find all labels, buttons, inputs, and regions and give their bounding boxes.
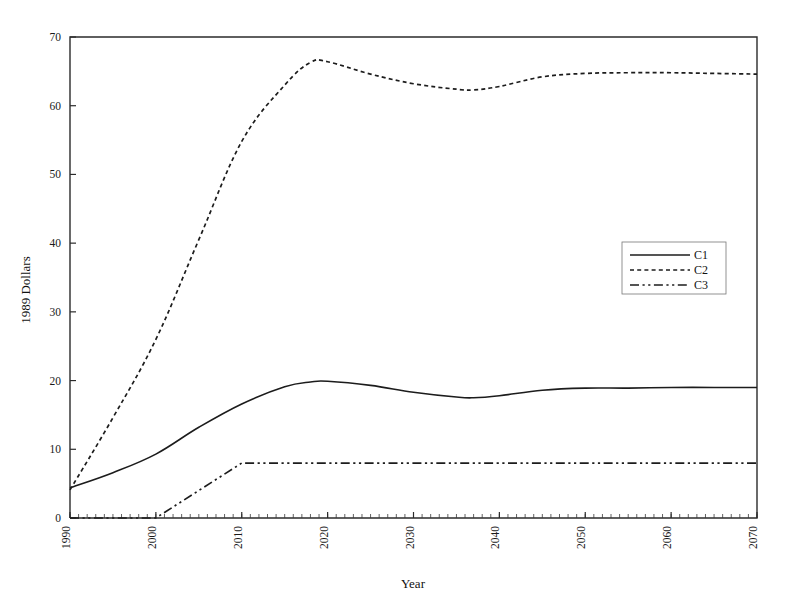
y-tick-label: 50 [50,168,62,180]
y-tick-label: 10 [50,443,62,455]
x-tick-label: 2070 [747,526,759,549]
y-tick-label: 70 [50,31,62,43]
y-tick-label: 40 [50,237,62,249]
y-axis-tick-labels: 010203040506070 [50,31,62,524]
x-tick-label: 2040 [489,526,501,549]
y-tick-label: 0 [55,512,61,524]
x-tick-label: 2030 [404,526,416,549]
y-axis-major-ticks [70,37,76,518]
x-tick-label: 2060 [661,526,673,549]
y-axis-title-group: 1989 Dollars [18,256,33,324]
legend-background [622,242,726,294]
series-line-c3 [70,463,757,518]
legend-label-c1: C1 [694,248,708,262]
x-axis-title: Year [401,576,426,591]
x-tick-label: 2020 [318,526,330,549]
legend-label-c2: C2 [694,263,708,277]
series-line-c1 [70,381,757,488]
x-axis-tick-labels: 199020002010202020302040205020602070 [60,526,759,549]
x-tick-label: 2050 [575,526,587,549]
chart-legend: C1C2C3 [622,242,726,294]
y-tick-label: 60 [50,100,62,112]
x-tick-label: 2000 [146,526,158,549]
x-tick-label: 2010 [232,526,244,549]
line-chart-svg: 199020002010202020302040205020602070 010… [0,0,793,602]
x-tick-label: 1990 [60,526,72,549]
chart-container: 199020002010202020302040205020602070 010… [0,0,793,602]
legend-label-c3: C3 [694,278,708,292]
x-axis-title-group: Year [401,576,426,591]
y-axis-title: 1989 Dollars [18,256,33,324]
y-tick-label: 30 [50,306,62,318]
y-tick-label: 20 [50,375,62,387]
